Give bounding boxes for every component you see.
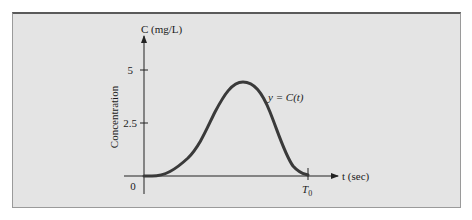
y-tick-label-2-5: 2.5 [123,117,137,129]
y-axis-title: Concentration [108,85,120,148]
origin-label: 0 [130,180,136,192]
t0-label: T0 [302,183,312,198]
curve-label: y = C(t) [267,91,304,104]
x-unit-label: t (sec) [342,170,370,183]
y-unit-label: C (mg/L) [141,23,183,36]
y-tick-label-5: 5 [128,64,134,76]
chart-svg: C (mg/L) 5 2.5 0 Concentration T0 t (sec… [0,0,472,220]
